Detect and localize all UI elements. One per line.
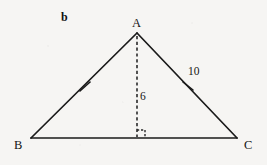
side-ac-length-label: 10 [188,66,200,78]
tick-mark-ac [183,82,193,90]
vertex-label-b: B [14,139,22,152]
part-label-b: b [61,11,68,23]
right-angle-marker [137,130,145,137]
vertex-label-a: A [132,17,141,30]
altitude-length-label: 6 [140,91,146,103]
segment-ab [31,33,137,138]
vertex-label-c: C [244,139,252,152]
geometry-figure: b A B C 6 10 [0,0,267,165]
